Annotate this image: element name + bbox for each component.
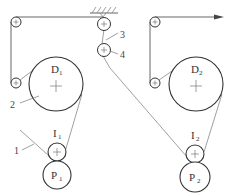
guide-pulley-top-right bbox=[150, 17, 160, 27]
drum-d2: D 2 bbox=[169, 57, 223, 111]
label-i2-sub: 2 bbox=[196, 135, 200, 143]
guide-pulley-bottom-right bbox=[150, 78, 160, 88]
label-p2-sub: 2 bbox=[197, 177, 201, 185]
pulley-diagram: D 1 D 2 I 1 P 1 I 2 P 2 2 1 3 4 bbox=[0, 0, 230, 196]
roller-p2: P 2 bbox=[180, 162, 210, 192]
label-i2: I bbox=[191, 129, 195, 141]
guide-pulley-bottom-left bbox=[11, 78, 21, 88]
ground-hatch-icon bbox=[90, 7, 118, 17]
pulley-3 bbox=[98, 18, 111, 31]
guide-pulley-top-left bbox=[11, 17, 21, 27]
label-d2-sub: 2 bbox=[199, 69, 203, 77]
callout-3: 3 bbox=[120, 29, 125, 40]
leader-1 bbox=[22, 144, 34, 150]
incoming-strand bbox=[20, 130, 48, 155]
drum-d1: D 1 bbox=[29, 57, 83, 111]
label-d2: D bbox=[191, 63, 199, 75]
label-i1-sub: 1 bbox=[58, 133, 62, 141]
label-p2: P bbox=[189, 171, 195, 183]
pulley-4 bbox=[98, 44, 111, 57]
belt-p4-down bbox=[103, 56, 110, 68]
callout-2: 2 bbox=[10, 99, 15, 110]
leader-4 bbox=[110, 51, 118, 54]
label-d1-sub: 1 bbox=[59, 69, 63, 77]
callout-1: 1 bbox=[14, 145, 19, 156]
label-p1-sub: 1 bbox=[59, 175, 63, 183]
label-i1: I bbox=[53, 127, 57, 139]
roller-i1: I 1 bbox=[48, 127, 66, 161]
label-p1: P bbox=[51, 169, 57, 181]
arrow-right-icon bbox=[214, 15, 224, 20]
belt-p3-to-p4 bbox=[102, 29, 104, 44]
label-d1: D bbox=[51, 63, 59, 75]
roller-i2: I 2 bbox=[186, 129, 204, 163]
roller-p1: P 1 bbox=[43, 161, 71, 189]
leader-3 bbox=[106, 33, 118, 40]
callout-4: 4 bbox=[120, 49, 125, 60]
